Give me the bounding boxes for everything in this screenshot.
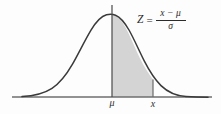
formula-fraction: x − μ σ bbox=[156, 9, 186, 31]
formula-lhs-symbol: Z bbox=[137, 14, 145, 26]
normal-distribution-figure: μ x Z = x − μ σ bbox=[0, 0, 221, 114]
axis-tick-label-bound: x bbox=[143, 99, 163, 109]
formula-numerator: x − μ bbox=[158, 9, 183, 20]
axis-tick-label-mean: μ bbox=[102, 98, 122, 108]
formula-equals-sign: = bbox=[145, 15, 155, 26]
formula-denominator: σ bbox=[166, 21, 175, 32]
z-score-formula: Z = x − μ σ bbox=[137, 9, 186, 31]
